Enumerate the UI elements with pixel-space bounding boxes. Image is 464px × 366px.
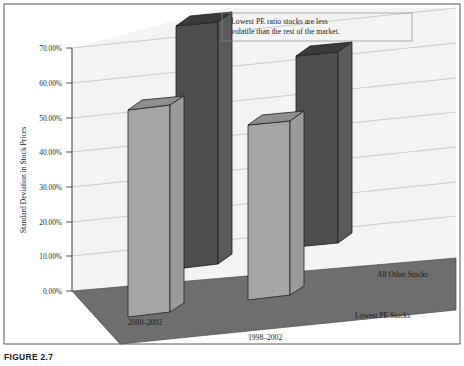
y-tick-label-20: 20.00% bbox=[39, 218, 62, 227]
y-tick-label-70: 70.00% bbox=[39, 44, 62, 53]
x-category-label-1: 1998–2002 bbox=[248, 333, 282, 342]
annotation-line-1: Lowest PE ratio stocks are less bbox=[231, 17, 328, 26]
y-tick-label-60: 60.00% bbox=[39, 79, 62, 88]
figure-caption: FIGURE 2.7 bbox=[4, 352, 53, 365]
y-tick-label-40: 40.00% bbox=[39, 148, 62, 157]
x-category-label-0: 2000–2002 bbox=[128, 318, 162, 327]
bar-lowest-pe-1998-2002 bbox=[248, 111, 304, 300]
y-tick-label-30: 30.00% bbox=[39, 183, 62, 192]
bar-chart-3d: 70.00% 60.00% 50.00% 40.00% 30.00% 20.00… bbox=[0, 0, 464, 366]
series-label-lowest-pe-stocks: Lowest PE Stocks bbox=[355, 311, 410, 320]
bar-lowest-pe-2000-2002 bbox=[128, 96, 184, 317]
series-label-all-other-stocks: All Other Stocks bbox=[377, 270, 428, 279]
annotation-line-2: volatile than the rest of the market. bbox=[231, 27, 340, 36]
y-tick-label-10: 10.00% bbox=[39, 252, 62, 261]
y-axis-title: Standard Deviation in Stock Prices bbox=[19, 127, 28, 233]
y-tick-label-0: 0.00% bbox=[43, 287, 62, 296]
figure-container: 70.00% 60.00% 50.00% 40.00% 30.00% 20.00… bbox=[0, 0, 464, 366]
y-tick-label-50: 50.00% bbox=[39, 114, 62, 123]
